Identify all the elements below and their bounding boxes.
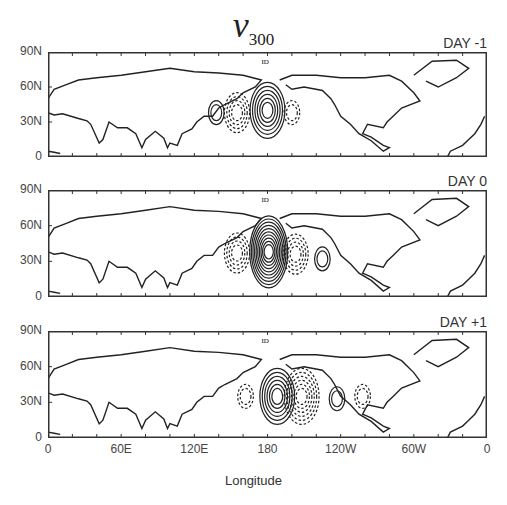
coastline [48, 291, 60, 293]
y-tick-label: 30N [2, 394, 42, 408]
coastline [280, 75, 420, 151]
y-tick-label: 0 [2, 430, 42, 444]
y-tick-label: 60N [2, 218, 42, 232]
y-tick-label: 60N [2, 79, 42, 93]
negative-contour [296, 388, 307, 404]
positive-contour [272, 388, 283, 404]
negative-contour [232, 105, 243, 121]
id-marker: ID [262, 337, 269, 345]
day-label: DAY -1 [443, 35, 487, 51]
positive-contour [250, 216, 288, 288]
title-variable: v [233, 5, 249, 45]
positive-contour [261, 238, 277, 265]
y-tick-label: 90N [2, 44, 42, 58]
positive-contour [211, 105, 222, 121]
negative-contour [240, 388, 251, 404]
day-label: DAY +1 [440, 314, 487, 330]
negative-contour [232, 245, 243, 261]
negative-contour [224, 233, 249, 273]
coastline [438, 255, 484, 297]
coastline [280, 214, 420, 291]
coastline [414, 339, 469, 366]
y-tick-label: 0 [2, 149, 42, 163]
negative-contour [286, 105, 297, 121]
contour-map: ID [48, 331, 487, 438]
figure-title: v300 [0, 4, 507, 50]
y-tick-label: 30N [2, 114, 42, 128]
negative-contour [285, 238, 305, 270]
x-tick-label: 0 [484, 442, 491, 456]
x-tick-label: 120W [325, 442, 356, 456]
x-tick-label: 180 [257, 442, 277, 456]
y-tick-label: 60N [2, 359, 42, 373]
coastline [438, 396, 484, 438]
positive-contour [332, 391, 343, 407]
x-tick-label: 60E [110, 442, 131, 456]
x-tick-label: 0 [45, 442, 52, 456]
contour-map: ID [48, 190, 487, 297]
id-marker: ID [262, 196, 269, 204]
positive-contour [262, 102, 273, 118]
positive-contour [255, 90, 280, 130]
y-tick-label: 90N [2, 182, 42, 196]
day-label: DAY 0 [448, 173, 487, 189]
negative-contour [357, 388, 368, 404]
negative-contour [290, 246, 301, 262]
title-subscript: 300 [249, 30, 275, 49]
contour-map: ID [48, 52, 487, 157]
id-marker: ID [262, 58, 269, 66]
coastline [414, 198, 469, 225]
positive-contour [257, 94, 277, 126]
panel-frame [49, 191, 487, 297]
x-axis-title: Longitude [0, 473, 507, 488]
coastline [48, 151, 60, 153]
map-panel-1: ID [48, 52, 487, 157]
panel-frame [49, 53, 487, 157]
map-panel-2: ID [48, 190, 487, 297]
coastline [48, 348, 261, 429]
y-tick-label: 90N [2, 323, 42, 337]
coastline [48, 207, 261, 288]
y-tick-label: 30N [2, 253, 42, 267]
y-tick-label: 0 [2, 289, 42, 303]
coastline [414, 60, 469, 87]
x-tick-label: 120E [180, 442, 208, 456]
coastline [48, 68, 261, 147]
positive-contour [317, 251, 328, 267]
x-tick-label: 60W [401, 442, 426, 456]
map-panel-3: ID [48, 331, 487, 438]
coastline [438, 116, 484, 157]
coastline [48, 432, 60, 434]
positive-contour [264, 245, 273, 259]
